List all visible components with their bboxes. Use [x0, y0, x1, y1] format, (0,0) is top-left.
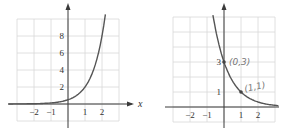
left-y-arrow-icon [66, 3, 71, 10]
right-chart: (0,3) (1,1) −2 −1 1 2 1 3 [165, 3, 279, 128]
right-y-tick: 1 [217, 87, 222, 97]
annotation-0-3: (0,3) [229, 57, 250, 67]
left-x-label: x [137, 98, 143, 109]
left-curve [9, 14, 106, 104]
left-x-tick: 2 [100, 107, 105, 117]
right-x-tick: −2 [185, 110, 195, 120]
right-x-tick: 2 [256, 110, 261, 120]
left-y-tick: 2 [60, 82, 65, 92]
left-x-tick: 1 [83, 107, 88, 117]
right-x-tick: 1 [239, 110, 244, 120]
left-chart: x −2 −1 1 2 2 4 6 8 [8, 3, 143, 128]
right-y-arrow-icon [222, 3, 227, 10]
point-0-3 [222, 60, 226, 64]
left-x-tick: −1 [46, 107, 56, 117]
left-x-tick: −2 [29, 107, 39, 117]
figure: x −2 −1 1 2 2 4 6 8 (0,3) (1,1) −2 −1 1 … [0, 0, 281, 134]
left-x-arrow-icon [127, 102, 134, 107]
right-y-tick: 3 [217, 57, 222, 67]
left-y-tick: 4 [60, 65, 65, 75]
point-1-1 [239, 90, 243, 94]
left-y-tick: 6 [60, 48, 65, 58]
right-x-tick: −1 [202, 110, 212, 120]
left-y-tick: 8 [60, 31, 65, 41]
